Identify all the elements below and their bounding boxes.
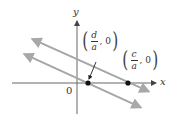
left-paren: ( bbox=[82, 30, 88, 52]
origin-label: 0 bbox=[66, 86, 72, 96]
coord-rest: , 0 bbox=[140, 55, 151, 65]
point-d-over-a bbox=[85, 80, 90, 85]
y-axis-label: y bbox=[73, 7, 79, 17]
fraction: d a bbox=[91, 31, 98, 52]
fraction: c a bbox=[131, 50, 138, 71]
denominator: a bbox=[131, 62, 136, 71]
left-paren: ( bbox=[122, 49, 128, 71]
right-paren: ) bbox=[152, 49, 158, 71]
numerator: c bbox=[132, 50, 137, 59]
right-paren: ) bbox=[112, 30, 118, 52]
point-c-over-a bbox=[125, 80, 130, 85]
coord-label-d-over-a: ( d a , 0 ) bbox=[81, 30, 120, 52]
coord-label-c-over-a: ( c a , 0 ) bbox=[121, 49, 160, 71]
denominator: a bbox=[91, 43, 96, 52]
coord-rest: , 0 bbox=[100, 36, 111, 46]
numerator: d bbox=[91, 31, 97, 40]
x-axis-label: x bbox=[160, 77, 166, 87]
